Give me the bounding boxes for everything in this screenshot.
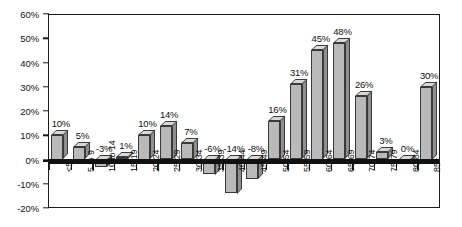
x-axis-category-label: 65-69 (346, 149, 356, 172)
y-axis-tick-label: 40% (20, 57, 39, 68)
x-axis-category-label: 70-74 (367, 149, 377, 172)
x-axis-category-label: 75-79 (389, 149, 399, 172)
bar-value-label: 30% (412, 70, 446, 81)
x-axis-category-label: 10 to 14 (107, 140, 117, 172)
bar-side-face (432, 81, 437, 159)
bar-front-face (51, 135, 63, 159)
x-axis-category-label: 25-29 (172, 149, 182, 172)
bar-front-face (268, 121, 280, 160)
bar-value-label: 48% (326, 26, 360, 37)
x-axis-category-label: 40-44 (237, 149, 247, 172)
y-axis-tick-label: 30% (20, 81, 39, 92)
bar (355, 96, 367, 159)
bar-front-face (225, 160, 237, 194)
bar-value-label: 7% (174, 126, 208, 137)
y-axis-tick-label: 50% (20, 33, 39, 44)
bar-side-face (302, 79, 307, 160)
x-axis-category-label: 50-54 (281, 149, 291, 172)
x-axis-category-label: 35-39 (216, 149, 226, 172)
y-axis-tick-label: -20% (17, 203, 39, 214)
x-axis-category-label: 30-34 (194, 149, 204, 172)
bar-value-label: 14% (152, 109, 186, 120)
bar-value-label: 10% (44, 118, 78, 129)
y-axis: 60%50%40%30%20%10%0%-10%-20% (0, 14, 49, 208)
x-axis-category-label: 5 to 9 (86, 150, 96, 172)
y-axis-tick-label: -10% (17, 178, 39, 189)
bar (268, 121, 280, 160)
bar-value-label: 26% (347, 79, 381, 90)
bar-front-face (160, 126, 172, 160)
bar-value-label: 5% (66, 130, 100, 141)
y-axis-tick-label: 60% (20, 9, 39, 20)
y-axis-tick-label: 20% (20, 106, 39, 117)
x-axis-tick-mark (49, 164, 50, 170)
y-axis-tick-label: 10% (20, 130, 39, 141)
plot-area: 10%5%-3%1%10%14%7%-6%-14%-8%16%31%45%48%… (49, 14, 439, 208)
bar (160, 126, 172, 160)
bar (290, 84, 302, 159)
x-axis-category-label: 60-64 (324, 149, 334, 172)
bar (51, 135, 63, 159)
zero-baseline-stub (43, 160, 49, 162)
bar-value-label: 16% (261, 104, 295, 115)
x-axis-category-label: 80-84 (411, 149, 421, 172)
x-axis-category-label: 55-59 (302, 149, 312, 172)
bar (225, 160, 237, 194)
bar-value-label: 31% (282, 67, 316, 78)
bar-front-face (333, 43, 345, 159)
bar-side-face (345, 38, 350, 160)
bar-front-face (290, 84, 302, 159)
bar-chart: 60%50%40%30%20%10%0%-10%-20% 10%5%-3%1%1… (0, 0, 462, 227)
bar-value-label: 10% (131, 118, 165, 129)
bar-front-face (181, 143, 193, 160)
x-axis-category-label: 15-19 (129, 149, 139, 172)
y-axis-tick-label: 0% (25, 154, 39, 165)
x-axis-category-label: 85+ (432, 157, 442, 172)
bar-side-face (323, 45, 328, 160)
bar (333, 43, 345, 159)
bar (181, 143, 193, 160)
x-axis-category-label: 45-49 (259, 149, 269, 172)
bar-front-face (355, 96, 367, 159)
x-axis-category-label: <5 (64, 161, 74, 171)
x-axis-category-label: 20-24 (151, 149, 161, 172)
